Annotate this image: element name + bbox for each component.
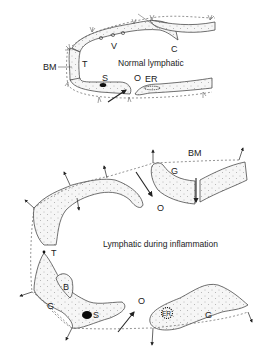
label-g-top: G — [171, 166, 178, 176]
label-g-left: G — [47, 301, 54, 311]
caption-inflammation: Lymphatic during inflammation — [103, 239, 218, 249]
arrow-icon — [136, 172, 152, 196]
label-s: S — [93, 310, 99, 320]
endothelial-cell-bottom-left — [34, 253, 125, 328]
normal-lymphatic-panel: BM T V C S O ER Normal lymphatic — [43, 14, 215, 103]
label-o-top: O — [157, 203, 164, 213]
caption-normal-lymphatic: Normal lymphatic — [118, 58, 184, 68]
label-s: S — [102, 73, 108, 83]
junction-icon — [43, 251, 46, 254]
label-er: ER — [162, 310, 171, 317]
endothelial-cell-left — [69, 48, 80, 82]
label-t: T — [82, 59, 88, 69]
label-t: T — [51, 248, 57, 258]
label-b: B — [63, 282, 69, 292]
label-bm: BM — [188, 148, 202, 158]
endothelial-cell-far-right — [200, 162, 247, 202]
dense-body-icon — [82, 311, 92, 319]
label-bm: BM — [43, 62, 57, 72]
label-g-right: G — [205, 310, 212, 320]
arrow-icon — [118, 312, 134, 332]
endothelial-cell-bottom-right — [150, 284, 248, 330]
label-c: C — [171, 44, 178, 54]
endothelial-cell-right-upper — [150, 20, 215, 32]
endothelial-cell-top-left — [33, 179, 143, 245]
dense-body-icon — [100, 83, 107, 87]
inflamed-lymphatic-panel: BM G O T B G S O ER G Lymphatic during i… — [20, 148, 252, 345]
label-o-bottom: O — [138, 296, 145, 306]
label-v: V — [111, 41, 117, 51]
lymphatic-diagram: BM T V C S O ER Normal lymphatic — [0, 0, 262, 359]
label-er: ER — [145, 74, 158, 84]
label-o: O — [134, 73, 141, 83]
